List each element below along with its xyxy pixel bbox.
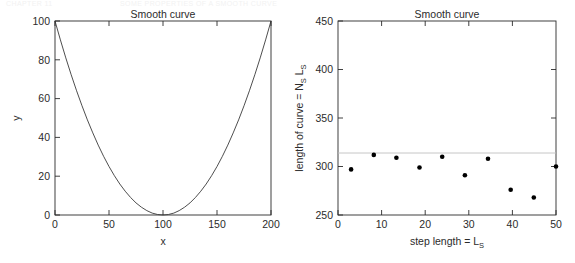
right-ytick-300: 300: [315, 160, 333, 172]
right-yaxis-label-p3: S: [299, 64, 308, 69]
right-xtick-20: 20: [419, 218, 431, 230]
left-ytick-0: 0: [44, 209, 50, 221]
right-ytick-250: 250: [315, 209, 333, 221]
right-panel: 250 300 350 400 450 0 10 20 30 40 50 ste…: [293, 8, 562, 250]
right-panel-title: Smooth curve: [415, 8, 480, 20]
left-ytick-80: 80: [38, 54, 50, 66]
right-yaxis-label-p2: L: [293, 69, 305, 78]
left-ytick-60: 60: [38, 92, 50, 104]
left-ytick-100: 100: [32, 15, 50, 27]
right-xtick-50: 50: [550, 218, 562, 230]
right-ytick-350: 350: [315, 112, 333, 124]
left-xtick-150: 150: [208, 218, 226, 230]
right-ytick-400: 400: [315, 63, 333, 75]
data-point: [417, 165, 422, 170]
left-ytick-40: 40: [38, 131, 50, 143]
right-xaxis-label-sub: S: [479, 241, 484, 250]
data-point: [463, 173, 468, 178]
data-point: [486, 157, 491, 162]
data-point: [554, 164, 559, 169]
data-point: [508, 187, 513, 192]
right-plot-box: [338, 21, 556, 215]
left-panel: 0 20 40 60 80 100 0 50 100 150 200 x y S…: [10, 8, 280, 247]
left-xtick-50: 50: [103, 218, 115, 230]
right-yaxis-label: length of curve = NS LS: [293, 64, 308, 171]
left-xtick-0: 0: [52, 218, 58, 230]
left-plot-box: [55, 21, 271, 215]
right-xaxis-label-main: step length = L: [410, 235, 479, 247]
left-panel-title: Smooth curve: [131, 8, 196, 20]
right-xtick-10: 10: [376, 218, 388, 230]
right-xtick-40: 40: [507, 218, 519, 230]
right-yaxis-label-p0: length of curve = N: [293, 83, 305, 171]
right-ytick-450: 450: [315, 15, 333, 27]
right-xtick-30: 30: [463, 218, 475, 230]
data-point: [394, 156, 399, 161]
left-yaxis-label: y: [10, 115, 22, 121]
data-point: [372, 153, 377, 158]
right-xaxis-label: step length = LS: [410, 235, 484, 250]
figure-svg: 0 20 40 60 80 100 0 50 100 150 200 x y S…: [0, 0, 575, 263]
left-xaxis-label: x: [160, 235, 166, 247]
figure-container: 0 20 40 60 80 100 0 50 100 150 200 x y S…: [0, 0, 575, 263]
data-point: [532, 195, 537, 200]
left-xtick-100: 100: [154, 218, 172, 230]
left-xtick-200: 200: [262, 218, 280, 230]
right-xtick-0: 0: [335, 218, 341, 230]
data-point: [440, 155, 445, 160]
left-ytick-20: 20: [38, 170, 50, 182]
data-point: [349, 167, 354, 172]
